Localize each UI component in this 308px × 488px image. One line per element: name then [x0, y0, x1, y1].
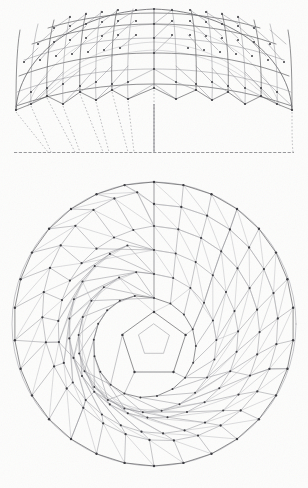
drawing-sheet: Geodesic Dome — Elevation and Plan Eleva…: [0, 0, 308, 488]
paper-grain-texture: [0, 0, 308, 488]
